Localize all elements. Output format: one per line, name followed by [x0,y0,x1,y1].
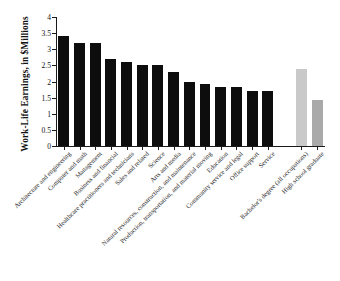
bar [247,91,258,146]
bar [231,87,242,146]
x-axis-tick [205,146,206,150]
bar [121,62,132,146]
x-axis-tick-label: Management [74,150,103,179]
y-axis-tick-label: 1 [47,109,51,118]
x-axis-tick [301,146,302,150]
bar [90,43,101,146]
plot-area: 00.511.522.533.54 [56,17,325,146]
x-axis-tick [221,146,222,150]
work-life-earnings-bar-chart: Work-Life Earnings, in $Millions 00.511.… [0,0,340,281]
bar [200,84,211,146]
x-axis-tick-label: Office support [228,150,260,182]
y-axis-tick-label: 2.5 [42,61,52,70]
x-axis-tick [95,146,96,150]
x-axis-tick-label: High school graduate [280,150,325,195]
x-axis-tick-label: Business and financial [72,150,119,197]
x-axis-tick-label: Computer and math [45,150,87,192]
y-axis-tick [52,65,56,66]
x-axis-tick-label: Sales and related [114,150,151,187]
y-axis-tick-label: 1.5 [42,93,52,102]
x-axis-tick-label: Natural resources, construction, and mai… [100,150,197,247]
x-axis-tick [189,146,190,150]
y-axis-tick [52,49,56,50]
x-axis-tick [268,146,269,150]
y-axis-tick-label: 0.5 [42,125,52,134]
x-axis-line [56,146,325,147]
bar [262,91,273,146]
x-axis-tick [236,146,237,150]
bar [184,82,195,147]
y-axis-tick [52,33,56,34]
x-axis-tick [111,146,112,150]
bar [137,65,148,146]
x-axis-tick [252,146,253,150]
x-axis-tick-label: Arts and media [148,150,181,183]
bar [105,59,116,146]
bar [296,69,307,146]
x-axis-tick [80,146,81,150]
x-axis-tick-label: Service [257,150,276,169]
x-axis-tick-label: Bachelor's degree (all occupations) [239,150,309,220]
y-axis-tick-label: 3 [47,45,51,54]
y-axis-tick-label: 3.5 [42,29,52,38]
y-axis-line [56,17,57,146]
bar [152,65,163,146]
bar [74,43,85,146]
y-axis-tick [52,146,56,147]
x-axis-tick [64,146,65,150]
x-axis-tick-label: Community service and legal [185,150,245,210]
y-axis-tick [52,82,56,83]
y-axis-tick-label: 2 [47,77,51,86]
y-axis-tick-label: 4 [47,13,51,22]
y-axis-tick [52,130,56,131]
y-axis-tick [52,17,56,18]
x-axis-tick [142,146,143,150]
x-axis-tick [317,146,318,150]
bar [58,36,69,146]
x-axis-tick-label: Production, transportation, and material… [118,150,213,245]
x-axis-tick-label: Healthcare practitioners and technicians [55,150,135,230]
x-axis-tick [127,146,128,150]
bar [312,100,323,146]
bar [168,72,179,146]
x-axis-tick [158,146,159,150]
x-axis-tick-label: Education [205,150,229,174]
bar [215,87,226,146]
y-axis-tick-label: 0 [47,142,51,151]
x-axis-tick [174,146,175,150]
y-axis-tick [52,114,56,115]
y-axis-title: Work-Life Earnings, in $Millions [20,9,30,159]
y-axis-tick [52,98,56,99]
x-axis-tick-label: Science [146,150,165,169]
